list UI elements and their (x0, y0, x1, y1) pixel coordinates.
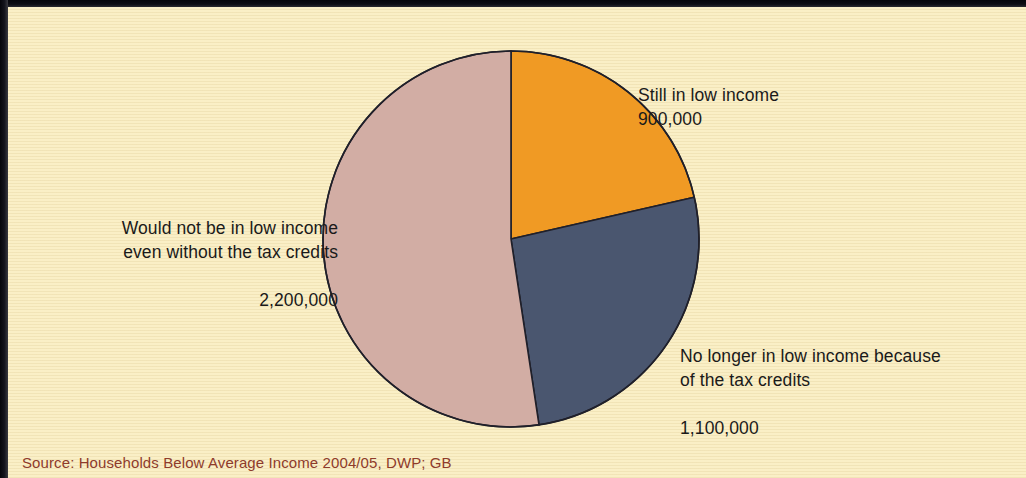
slice-label-line2: of the tax credits (680, 368, 941, 392)
slice-label-line1: Still in low income (638, 85, 779, 105)
page-surface: Still in low income 900,000 Would not be… (8, 7, 1026, 478)
pie-chart: Still in low income 900,000 Would not be… (8, 7, 1026, 478)
source-note: Source: Households Below Average Income … (22, 454, 452, 472)
slice-label-line1: Would not be in low income (122, 218, 338, 238)
slice-label-no-longer-in-low-income: No longer in low income because of the t… (680, 320, 941, 464)
scan-edge-left (0, 0, 8, 478)
slice-label-still-in-low-income: Still in low income 900,000 (638, 59, 779, 155)
slice-label-line2: even without the tax credits (8, 240, 338, 264)
slice-value-would-not: 2,200,000 (8, 288, 338, 312)
scan-edge-top (0, 0, 1026, 7)
figure-page: Still in low income 900,000 Would not be… (0, 0, 1026, 478)
slice-label-line1: No longer in low income because (680, 346, 941, 366)
slice-label-would-not-be-in-low-income: Would not be in low income even without … (8, 192, 338, 336)
pie-slice-would-not-be-in-low-income (323, 51, 539, 427)
slice-value-no-longer: 1,100,000 (680, 416, 941, 440)
slice-value-still: 900,000 (638, 107, 779, 131)
